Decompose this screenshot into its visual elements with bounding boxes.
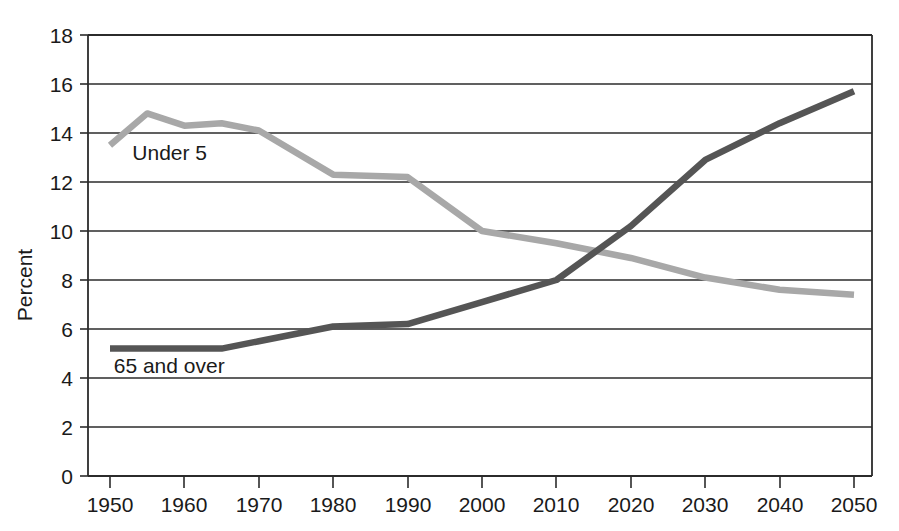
x-tick-label-1950: 1950 [87,493,134,516]
y-axis-title: Percent [13,249,36,322]
x-tick-label-2000: 2000 [459,493,506,516]
chart-container: 18 16 14 12 10 8 6 4 2 0 Percent [0,0,899,531]
y-tick-label-16: 16 [50,73,73,96]
plot-frame [88,35,872,476]
series-line-65-and-over[interactable] [110,91,854,348]
y-tick-label-2: 2 [61,416,73,439]
x-tick-label-2050: 2050 [831,493,878,516]
x-tick-label-1970: 1970 [236,493,283,516]
x-axis-ticks [110,476,854,488]
x-tick-label-1960: 1960 [161,493,208,516]
x-tick-label-2040: 2040 [757,493,804,516]
x-axis-tick-labels: 1950 1960 1970 1980 1990 2000 2010 2020 … [87,493,878,516]
data-series-group [110,91,854,348]
x-tick-label-2020: 2020 [608,493,655,516]
y-tick-label-12: 12 [50,171,73,194]
x-tick-label-1980: 1980 [310,493,357,516]
x-tick-label-1990: 1990 [385,493,432,516]
series-label-65-and-over: 65 and over [114,354,225,377]
y-tick-label-8: 8 [61,269,73,292]
y-tick-label-6: 6 [61,318,73,341]
series-label-under-5: Under 5 [132,141,207,164]
series-annotations: Under 5 65 and over [114,141,225,377]
x-tick-label-2010: 2010 [533,493,580,516]
y-tick-label-0: 0 [61,465,73,488]
y-axis-tick-labels: 18 16 14 12 10 8 6 4 2 0 [50,24,74,488]
line-chart: 18 16 14 12 10 8 6 4 2 0 Percent [0,0,899,531]
x-tick-label-2030: 2030 [682,493,729,516]
y-tick-label-10: 10 [50,220,73,243]
y-tick-label-18: 18 [50,24,73,47]
y-tick-label-14: 14 [50,122,74,145]
y-tick-label-4: 4 [61,367,73,390]
y-axis-ticks [80,35,88,476]
